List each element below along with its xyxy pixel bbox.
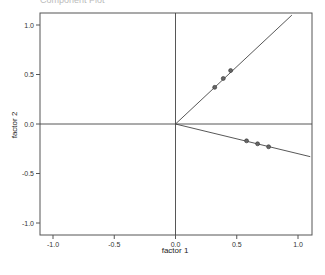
y-tick-label: 1.0 (24, 22, 34, 29)
component-plot: Component Plot -1.0-0.50.00.51.0-1.0-0.5… (0, 0, 325, 275)
y-tick-label: -1.0 (22, 220, 34, 227)
y-tick-label: 0.5 (24, 71, 34, 78)
data-point (213, 85, 217, 89)
y-axis-label: factor 2 (10, 111, 19, 138)
x-tick-label: -0.5 (108, 241, 120, 248)
data-point (245, 139, 249, 143)
x-tick-label: -1.0 (47, 241, 59, 248)
x-axis-label: factor 1 (162, 246, 189, 255)
plot-area: -1.0-0.50.00.51.0-1.0-0.50.00.51.0 (22, 13, 312, 248)
y-tick-label: 0.0 (24, 121, 34, 128)
x-tick-label: 1.0 (293, 241, 303, 248)
data-point (229, 69, 233, 73)
data-point (221, 76, 225, 80)
y-tick-label: -0.5 (22, 170, 34, 177)
data-point (256, 142, 260, 146)
loading-ray-2 (176, 124, 311, 157)
x-tick-label: 0.5 (232, 241, 242, 248)
loading-ray-1 (176, 15, 292, 124)
data-point (267, 145, 271, 149)
chart-title: Component Plot (40, 0, 105, 5)
